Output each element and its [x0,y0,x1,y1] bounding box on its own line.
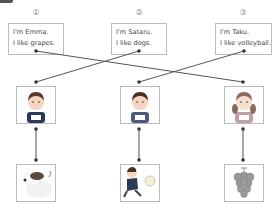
boy-icon [17,87,55,123]
thing-picture-dog [16,164,56,202]
grapes-icon [225,165,263,201]
person-picture-2 [120,86,160,124]
boy-icon [121,87,159,123]
dog-icon [17,165,55,201]
person-picture-3 [224,86,264,124]
girl-icon [225,87,263,123]
person-picture-1 [16,86,56,124]
thing-picture-grapes [224,164,264,202]
thing-picture-volleyball [120,164,160,202]
volleyball-player-icon [121,165,159,201]
